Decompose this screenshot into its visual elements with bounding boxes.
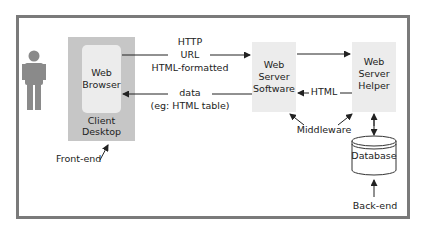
connector-arrows xyxy=(0,0,428,231)
